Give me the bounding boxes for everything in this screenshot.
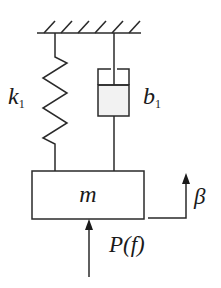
- force-label: P(f): [108, 232, 145, 257]
- mass-spring-damper-diagram: k1 b1 m β P(f): [0, 0, 221, 288]
- spring-label: k1: [8, 83, 25, 111]
- force-arrowhead-icon: [85, 219, 93, 230]
- ground-support: [37, 21, 141, 33]
- damper: [98, 33, 129, 171]
- displacement-arrow: [148, 182, 186, 218]
- displacement-arrowhead-icon: [182, 173, 190, 184]
- mass-label: m: [79, 181, 96, 207]
- spring: [43, 33, 67, 171]
- damper-label: b1: [143, 83, 161, 111]
- displacement-label: β: [193, 184, 206, 209]
